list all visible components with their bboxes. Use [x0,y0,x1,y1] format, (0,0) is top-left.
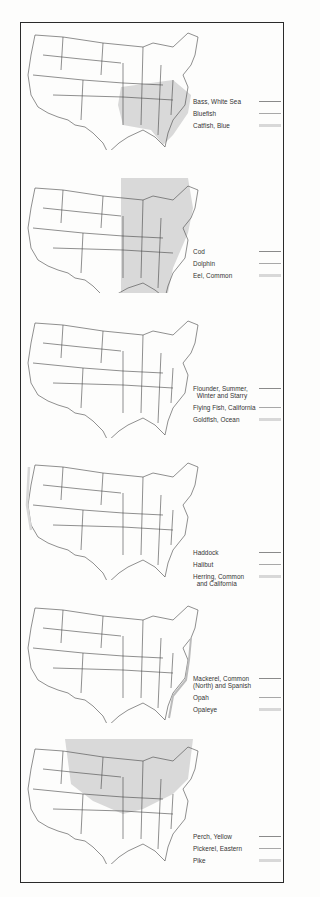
legend-line-icon [259,836,281,837]
legend-item: Bluefish [193,110,283,120]
legend-item: Halibut [193,561,283,571]
legend-label: Eel, Common [193,272,232,279]
map-panel-3: Flounder, Summer, Winter and Starry Flyi… [21,313,285,456]
legend-item: Goldfish, Ocean [193,416,283,426]
shade-north [65,739,193,814]
legend-item: Haddock [193,549,283,559]
legend-label: Pickerel, Eastern [193,845,242,852]
legend-label: Flying Fish, California [193,404,256,411]
legend-line-icon [259,101,281,102]
legend-line-icon [259,418,281,421]
legend-line-icon [259,407,281,408]
shade-east [121,178,193,293]
legend-item: Mackerel, Common (North) and Spanish [193,675,283,692]
legend-label: Pike [193,857,206,864]
legend-line-icon [259,848,281,849]
legend-label: Cod [193,248,205,255]
legend-label: Goldfish, Ocean [193,416,240,423]
legend-line-icon [259,113,281,114]
legend-4: Haddock Halibut Herring, Common and Cali… [193,549,283,585]
legend-line-icon [259,263,281,264]
legend-label: Perch, Yellow [193,833,232,840]
legend-item: Pike [193,857,283,867]
legend-label: Catfish, Blue [193,122,230,129]
legend-item: Catfish, Blue [193,122,283,132]
page-frame: Bass, White Sea Bluefish Catfish, Blue C… [20,22,284,883]
shade-southeast [118,80,191,145]
map-panel-4: Haddock Halibut Herring, Common and Cali… [21,455,285,598]
legend-item: Flounder, Summer, Winter and Starry [193,385,283,402]
legend-line-icon [259,564,281,565]
legend-label: Opah [193,694,209,701]
legend-label: Opaleye [193,706,217,713]
legend-line-icon [259,124,281,127]
legend-item: Bass, White Sea [193,98,283,108]
legend-item: Opaleye [193,706,283,716]
legend-3: Flounder, Summer, Winter and Starry Flyi… [193,385,283,428]
legend-item: Flying Fish, California [193,404,283,414]
legend-1: Bass, White Sea Bluefish Catfish, Blue [193,98,283,134]
legend-item: Herring, Common and California [193,573,283,583]
legend-label: Halibut [193,561,213,568]
legend-line-icon [259,859,281,862]
legend-item: Dolphin [193,260,283,270]
legend-line-icon [259,575,281,578]
legend-item: Pickerel, Eastern [193,845,283,855]
legend-line-icon [259,552,281,553]
legend-2: Cod Dolphin Eel, Common [193,248,283,284]
legend-label: Herring, Common and California [193,573,244,587]
legend-line-icon [259,678,281,679]
map-panel-6: Perch, Yellow Pickerel, Eastern Pike [21,739,285,882]
legend-line-icon [259,708,281,711]
legend-item: Opah [193,694,283,704]
legend-line-icon [259,388,281,389]
legend-label: Flounder, Summer, Winter and Starry [193,385,248,399]
legend-line-icon [259,251,281,252]
legend-label: Bluefish [193,110,216,117]
legend-label: Dolphin [193,260,215,267]
legend-label: Bass, White Sea [193,98,241,105]
map-panel-1: Bass, White Sea Bluefish Catfish, Blue [21,25,285,168]
legend-label: Haddock [193,549,219,556]
map-panel-2: Cod Dolphin Eel, Common [21,168,285,311]
legend-label: Mackerel, Common (North) and Spanish [193,675,251,689]
legend-6: Perch, Yellow Pickerel, Eastern Pike [193,833,283,869]
legend-item: Perch, Yellow [193,833,283,843]
legend-line-icon [259,274,281,277]
legend-line-icon [259,697,281,698]
legend-item: Eel, Common [193,272,283,282]
legend-item: Cod [193,248,283,258]
map-panel-5: Mackerel, Common (North) and Spanish Opa… [21,598,285,741]
legend-5: Mackerel, Common (North) and Spanish Opa… [193,675,283,718]
